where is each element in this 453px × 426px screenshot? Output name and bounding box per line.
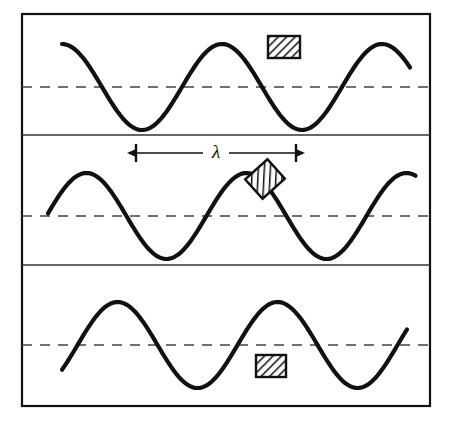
float-block-top [268,36,300,58]
wave-diagram-figure: λ [0,0,453,426]
wave-diagram-canvas: λ [0,0,453,426]
panel-middle [22,159,430,259]
wavelength-dimension: λ [136,141,296,162]
wavelength-label: λ [211,141,220,162]
panel-top [22,36,430,130]
panel-bottom [22,302,430,388]
float-block-bottom [256,355,286,377]
float-block-middle [245,159,285,198]
